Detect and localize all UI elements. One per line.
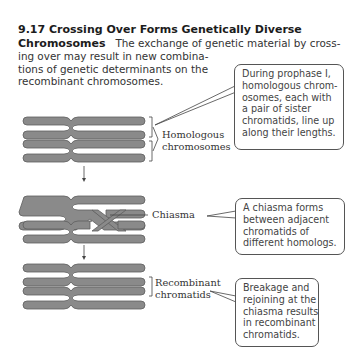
recombinant-label-line: Recombinant	[155, 277, 221, 289]
callout-line: rejoining at the	[243, 294, 313, 306]
homologous-label: Homologous chromosomes	[162, 129, 231, 152]
callout-line: in recombinant	[243, 317, 313, 329]
callout-line: chromatids.	[243, 329, 313, 341]
homologous-label-line: Homologous	[162, 129, 231, 141]
callout-line: homologous chrom-	[242, 80, 338, 92]
arrow-down-icon	[82, 166, 86, 182]
callout-line: Breakage and	[243, 282, 313, 294]
callout-line: chiasma results	[243, 306, 313, 318]
recombinant-chromatids-graphic	[23, 264, 145, 309]
chiasma-callout-pointer	[207, 211, 236, 218]
chiasma-callout: A chiasma forms between adjacent chromat…	[235, 198, 345, 255]
homologous-label-line: chromosomes	[162, 141, 231, 153]
callout-line: different homologs.	[243, 237, 339, 249]
recombinant-label: Recombinant chromatids	[155, 277, 221, 300]
callout-line: chromatids, line up	[242, 115, 338, 127]
callout-line: osomes, each with	[242, 92, 338, 104]
callout-line: chromatids of	[243, 226, 339, 238]
callout-line: a pair of sister	[242, 103, 338, 115]
prophase-callout: During prophase I, homologous chrom- oso…	[234, 64, 344, 150]
arrow-down-icon	[82, 245, 86, 260]
breakage-callout: Breakage and rejoining at the chiasma re…	[235, 278, 319, 347]
chiasma-graphic	[19, 196, 145, 243]
recombinant-label-line: chromatids	[155, 289, 221, 301]
chiasma-label: Chiasma	[152, 209, 195, 221]
homologous-chromosomes-graphic	[23, 117, 145, 162]
callout-line: During prophase I,	[242, 68, 338, 80]
callout-line: A chiasma forms	[243, 202, 339, 214]
callout-line: along their lengths.	[242, 127, 338, 139]
homologous-bracket	[149, 117, 158, 161]
callout-line: between adjacent	[243, 214, 339, 226]
prophase-callout-pointer	[155, 86, 236, 125]
recombinant-bracket	[149, 277, 152, 296]
